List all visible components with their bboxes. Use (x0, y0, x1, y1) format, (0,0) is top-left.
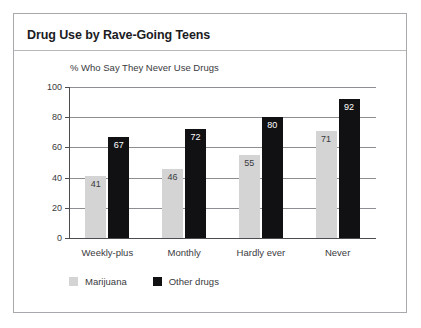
bar-group: 7192Never (299, 87, 376, 238)
y-axis-tick-label: 20 (52, 203, 62, 213)
title-divider (14, 50, 407, 51)
y-axis-tick-label: 0 (57, 233, 62, 243)
bar-other-drugs: 72 (185, 129, 206, 238)
page-title: Drug Use by Rave-Going Teens (27, 28, 210, 42)
bar-other-drugs: 67 (108, 137, 129, 238)
x-axis-category-label: Hardly ever (223, 247, 300, 258)
y-axis-tick-label: 40 (52, 173, 62, 183)
legend-swatch-other-drugs (153, 277, 162, 286)
legend-item-label: Marijuana (85, 276, 127, 287)
x-axis-category-label: Never (299, 247, 376, 258)
legend-item-label: Other drugs (169, 276, 219, 287)
bar-group: 4167Weekly-plus (69, 87, 146, 238)
legend-item: Marijuana (69, 276, 127, 287)
y-axis-tick-label: 60 (52, 142, 62, 152)
legend-swatch-marijuana (69, 277, 78, 286)
legend-item: Other drugs (153, 276, 219, 287)
bar-marijuana: 41 (85, 176, 106, 238)
x-axis-category-label: Weekly-plus (69, 247, 146, 258)
bar-marijuana: 55 (239, 155, 260, 238)
bar-value-label: 71 (316, 134, 337, 144)
bar-group: 5580Hardly ever (223, 87, 300, 238)
chart-figure: Drug Use by Rave-Going Teens % Who Say T… (13, 13, 407, 313)
bar-value-label: 67 (108, 140, 129, 150)
x-axis-category-label: Monthly (146, 247, 223, 258)
bar-value-label: 72 (185, 132, 206, 142)
bar-value-label: 92 (339, 102, 360, 112)
bar-other-drugs: 92 (339, 99, 360, 238)
y-axis-tick-mark (65, 238, 70, 239)
bar-marijuana: 46 (162, 169, 183, 238)
y-axis-tick-label: 80 (52, 112, 62, 122)
bar-group: 4672Monthly (146, 87, 223, 238)
bar-value-label: 55 (239, 158, 260, 168)
bar-other-drugs: 80 (262, 117, 283, 238)
bar-value-label: 46 (162, 172, 183, 182)
y-axis-tick-label: 100 (47, 82, 62, 92)
gridline (69, 238, 376, 239)
bar-value-label: 41 (85, 179, 106, 189)
chart-subtitle: % Who Say They Never Use Drugs (70, 62, 219, 73)
chart-legend: MarijuanaOther drugs (69, 276, 219, 287)
bar-value-label: 80 (262, 120, 283, 130)
plot-area: 020406080100 4167Weekly-plus4672Monthly5… (69, 87, 376, 238)
bar-marijuana: 71 (316, 131, 337, 238)
